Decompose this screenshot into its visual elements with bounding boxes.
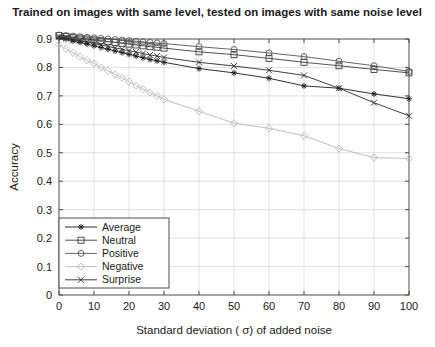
x-tick-label: 50: [228, 300, 240, 312]
x-tick-label: 40: [193, 300, 205, 312]
x-tick-label: 100: [400, 300, 418, 312]
y-tick-label: 0.9: [37, 33, 52, 45]
y-tick-label: 0.6: [37, 118, 52, 130]
y-tick-label: 0.3: [37, 204, 52, 216]
y-tick-label: 0.2: [37, 232, 52, 244]
legend-label: Neutral: [102, 234, 136, 246]
x-tick-label: 60: [263, 300, 275, 312]
y-tick-label: 0: [46, 289, 52, 301]
y-tick-label: 0.4: [37, 175, 52, 187]
x-axis-label: Standard deviation ( σ) of added noise: [136, 324, 332, 336]
x-tick-label: 70: [298, 300, 310, 312]
x-tick-label: 90: [368, 300, 380, 312]
chart-title: Trained on images with same level, teste…: [12, 6, 422, 18]
x-tick-label: 30: [158, 300, 170, 312]
x-tick-label: 80: [333, 300, 345, 312]
chart-legend: AverageNeutralPositiveNegativeSurprise: [59, 218, 169, 288]
y-tick-label: 0.7: [37, 90, 52, 102]
x-tick-label: 20: [123, 300, 135, 312]
x-tick-label: 0: [56, 300, 62, 312]
y-axis-label: Accuracy: [8, 143, 20, 191]
y-tick-label: 0.8: [37, 61, 52, 73]
x-tick-label: 10: [88, 300, 100, 312]
legend-label: Negative: [102, 260, 144, 272]
legend-label: Positive: [102, 247, 139, 259]
accuracy-vs-noise-chart: Trained on images with same level, teste…: [0, 0, 435, 347]
y-tick-label: 0.5: [37, 147, 52, 159]
legend-label: Surprise: [102, 273, 141, 285]
y-tick-label: 0.1: [37, 261, 52, 273]
legend-label: Average: [102, 221, 141, 233]
